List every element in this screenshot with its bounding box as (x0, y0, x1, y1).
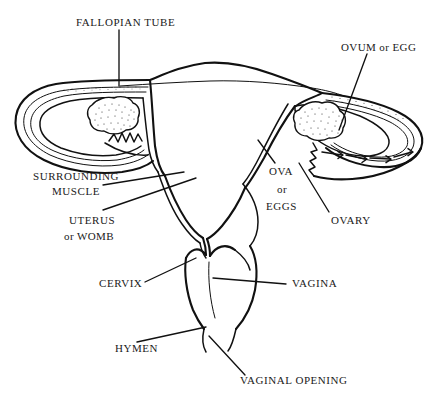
tube-isthmus-left (143, 80, 165, 176)
leader-cervix (145, 258, 196, 282)
label-or: or (277, 183, 287, 195)
label-vaginal-opening: VAGINAL OPENING (240, 374, 348, 386)
label-uterus: UTERUS (69, 214, 115, 226)
label-hymen: HYMEN (115, 342, 158, 354)
label-ova: OVA (269, 165, 293, 177)
label-ovary: OVARY (331, 214, 371, 226)
leader-ovary (299, 163, 329, 212)
label-vagina: VAGINA (292, 277, 337, 289)
leader-lines (103, 30, 367, 375)
label-muscle: MUSCLE (52, 185, 100, 197)
anatomy-diagram: FALLOPIAN TUBE OVUM or EGG SURROUNDING M… (0, 0, 447, 408)
leader-vagina (213, 278, 286, 284)
anatomy-illustration: FALLOPIAN TUBE OVUM or EGG SURROUNDING M… (0, 0, 447, 408)
label-ovum-or-egg: OVUM or EGG (341, 41, 416, 53)
label-eggs: EGGS (266, 200, 297, 212)
ovary-left (88, 97, 140, 134)
label-cervix: CERVIX (99, 277, 142, 289)
label-surrounding: SURROUNDING (33, 170, 119, 182)
leader-ovum-or-egg (339, 54, 367, 130)
uterus-fundus (120, 63, 344, 96)
ovary-right (294, 102, 346, 141)
hymen (203, 329, 236, 352)
label-or-womb: or WOMB (64, 230, 114, 242)
leader-hymen (137, 327, 206, 342)
leader-vaginal-opening (209, 336, 245, 375)
label-fallopian-tube: FALLOPIAN TUBE (76, 16, 175, 28)
